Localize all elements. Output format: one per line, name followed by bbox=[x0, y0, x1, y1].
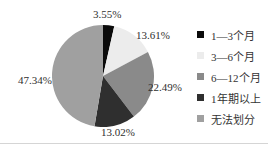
pie-chart-panel: 3.55% 13.61% 22.49% 13.02% 47.34% 1—3个月 … bbox=[0, 0, 268, 144]
legend-swatch-icon bbox=[197, 94, 204, 101]
data-label-3-6-month: 13.61% bbox=[136, 29, 170, 41]
legend-item: 1年期以上 bbox=[197, 87, 261, 108]
legend-label: 3—6个月 bbox=[211, 48, 255, 64]
legend: 1—3个月 3—6个月 6—12个月 1年期以上 无法划分 bbox=[197, 24, 261, 129]
legend-swatch-icon bbox=[197, 52, 204, 59]
legend-item: 3—6个月 bbox=[197, 45, 261, 66]
legend-item: 6—12个月 bbox=[197, 66, 261, 87]
legend-label: 1年期以上 bbox=[211, 90, 261, 106]
legend-label: 无法划分 bbox=[211, 111, 255, 127]
data-label-1-3-month: 3.55% bbox=[93, 8, 121, 20]
legend-swatch-icon bbox=[197, 73, 204, 80]
legend-label: 6—12个月 bbox=[211, 69, 261, 85]
legend-swatch-icon bbox=[197, 31, 204, 38]
data-label-over-1-year: 13.02% bbox=[101, 126, 135, 138]
legend-item: 无法划分 bbox=[197, 108, 261, 129]
legend-swatch-icon bbox=[197, 115, 204, 122]
legend-item: 1—3个月 bbox=[197, 24, 261, 45]
data-label-6-12-month: 22.49% bbox=[148, 81, 182, 93]
legend-label: 1—3个月 bbox=[211, 27, 255, 43]
data-label-unclassifiable: 47.34% bbox=[18, 74, 52, 86]
